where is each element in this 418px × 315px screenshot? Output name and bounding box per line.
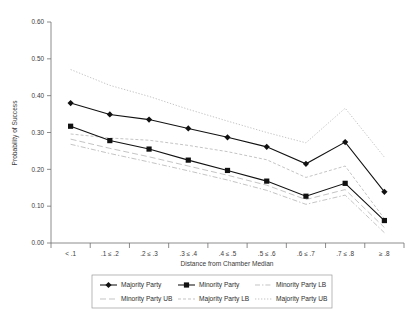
legend-label: Majority Party LB	[199, 295, 250, 303]
y-tick-label: 0.50	[32, 55, 45, 62]
y-tick-label: 0.00	[32, 239, 45, 246]
legend-label: Minority Party	[199, 281, 240, 289]
x-tick-label: .1 ≤ .2	[101, 250, 119, 257]
data-point-marker	[264, 179, 269, 184]
series-line-minority-party-ub	[71, 139, 385, 227]
x-tick-label: .3 ≤ .4	[179, 250, 197, 257]
data-point-marker	[68, 100, 74, 106]
y-tick-label: 0.20	[32, 166, 45, 173]
data-point-marker	[303, 161, 309, 167]
y-tick-label: 0.10	[32, 202, 45, 209]
data-point-marker	[225, 168, 230, 173]
data-point-marker	[224, 134, 230, 140]
data-point-marker	[185, 125, 191, 131]
probability-of-success-line-chart: 0.000.100.200.300.400.500.60 < .1.1 ≤ .2…	[0, 0, 418, 315]
y-axis-ticks: 0.000.100.200.300.400.500.60	[32, 18, 51, 246]
series-line-minority-party-lb	[71, 144, 385, 232]
legend-label: Majority Party UB	[276, 295, 328, 303]
series-line-majority-party	[71, 103, 385, 192]
legend-marker	[184, 282, 189, 287]
data-point-marker	[264, 144, 270, 150]
legend-label: Minority Party LB	[276, 281, 327, 289]
y-tick-label: 0.30	[32, 129, 45, 136]
data-point-marker	[303, 194, 308, 199]
data-point-marker	[107, 111, 113, 117]
legend-marker	[105, 282, 111, 288]
x-tick-label: .5 ≤ .6	[258, 250, 276, 257]
x-tick-label: < .1	[65, 250, 76, 257]
x-tick-label: .2 ≤ .3	[140, 250, 158, 257]
data-point-marker	[68, 124, 73, 129]
x-tick-label: .6 ≤ .7	[297, 250, 315, 257]
legend-label: Majority Party	[121, 281, 162, 289]
y-tick-label: 0.60	[32, 18, 45, 25]
series-line-majority-party-ub	[71, 70, 385, 158]
x-tick-label: ≥ .8	[379, 250, 390, 257]
x-tick-label: .7 ≤ .8	[336, 250, 354, 257]
chart-container: 0.000.100.200.300.400.500.60 < .1.1 ≤ .2…	[0, 0, 418, 315]
data-point-marker	[146, 146, 151, 151]
series-layer	[68, 70, 388, 233]
data-point-marker	[146, 117, 152, 123]
data-point-marker	[107, 138, 112, 143]
x-axis-title: Distance from Chamber Median	[180, 260, 273, 267]
y-tick-label: 0.40	[32, 92, 45, 99]
y-axis-title: Probability of Success	[11, 100, 19, 166]
x-axis-ticks: < .1.1 ≤ .2.2 ≤ .3.3 ≤ .4.4 ≤ .5.5 ≤ .6.…	[51, 243, 404, 257]
legend-label: Minority Party UB	[121, 295, 173, 303]
legend: Majority PartyMinority PartyMinority Par…	[100, 281, 328, 303]
x-tick-label: .4 ≤ .5	[219, 250, 237, 257]
data-point-marker	[186, 158, 191, 163]
legend-border	[92, 275, 332, 308]
data-point-marker	[382, 218, 387, 223]
data-point-marker	[343, 181, 348, 186]
